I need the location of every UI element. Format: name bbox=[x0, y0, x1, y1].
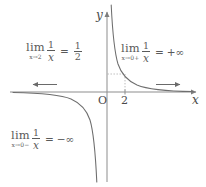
x-tick-label-2: 2 bbox=[121, 94, 128, 107]
limit-figure: y x O 2 lim x→2 1 x = 1 2 lim x→0+ 1 x bbox=[0, 0, 206, 187]
equals-sign: = bbox=[155, 47, 164, 58]
lim-subscript: x→2 bbox=[29, 54, 42, 60]
result-denominator: 2 bbox=[74, 52, 82, 62]
annotation-limit-at-2: lim x→2 1 x = 1 2 bbox=[26, 40, 84, 62]
fraction-one-over-x: 1 x bbox=[47, 40, 55, 62]
fraction-denominator: x bbox=[47, 51, 55, 62]
lim-subscript: x→0+ bbox=[122, 55, 140, 61]
lim-operator: lim x→0+ bbox=[121, 43, 140, 61]
fraction-one-over-x: 1 x bbox=[32, 128, 40, 150]
origin-label: O bbox=[98, 94, 107, 107]
annotation-limit-zero-minus: lim x→0− 1 x = −∞ bbox=[11, 128, 74, 150]
fraction-numerator: 1 bbox=[32, 128, 40, 138]
result-positive-infinity: +∞ bbox=[167, 47, 185, 58]
equals-sign: = bbox=[45, 134, 54, 145]
fraction-denominator: x bbox=[142, 52, 150, 63]
fraction-numerator: 1 bbox=[47, 40, 55, 50]
fraction-one-half: 1 2 bbox=[74, 41, 82, 62]
x-axis-label: x bbox=[192, 93, 199, 107]
result-numerator: 1 bbox=[74, 41, 82, 51]
fraction-denominator: x bbox=[32, 139, 40, 150]
equals-sign: = bbox=[60, 46, 69, 57]
fraction-one-over-x: 1 x bbox=[142, 41, 150, 63]
lim-operator: lim x→0− bbox=[11, 130, 30, 148]
lim-operator: lim x→2 bbox=[26, 42, 45, 60]
annotation-limit-zero-plus: lim x→0+ 1 x = +∞ bbox=[121, 41, 184, 63]
result-negative-infinity: −∞ bbox=[57, 134, 75, 145]
lim-subscript: x→0− bbox=[12, 142, 30, 148]
y-axis-label: y bbox=[96, 8, 103, 22]
fraction-numerator: 1 bbox=[142, 41, 150, 51]
